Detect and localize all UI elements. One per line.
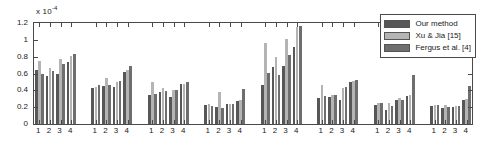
y-tick-label-0: 0 (0, 119, 28, 128)
x-tick-label-g7-3: 3 (396, 126, 400, 135)
x-tick-mark-bottom (128, 120, 129, 124)
x-tick-mark-bottom (106, 120, 107, 124)
x-tick-label-g7-1: 1 (375, 126, 379, 135)
y-axis-multiplier-mantissa: x 10 (36, 7, 52, 16)
x-tick-mark-top (71, 23, 72, 27)
x-tick-label-g3-2: 2 (160, 126, 164, 135)
x-tick-mark-bottom (287, 120, 288, 124)
bar-g1-c3-s2 (62, 64, 65, 124)
bar-g2-c1-s2 (98, 85, 101, 124)
y-tick-label-0.2: 0.2 (0, 102, 28, 111)
y-tick-label-1: 1 (0, 34, 28, 43)
x-tick-mark-bottom (71, 120, 72, 124)
x-tick-mark-bottom (184, 120, 185, 124)
x-tick-mark-bottom (163, 120, 164, 124)
x-tick-mark-top (343, 23, 344, 27)
x-tick-label-g1-4: 4 (68, 126, 72, 135)
bar-g7-c4-s2 (412, 75, 415, 124)
x-tick-label-g4-2: 2 (216, 126, 220, 135)
bar-g5-c4-s2 (299, 26, 302, 124)
bar-g3-c4-s2 (186, 82, 189, 125)
y-tick-label-1.2: 1.2 (0, 18, 28, 27)
x-tick-mark-bottom (219, 120, 220, 124)
bar-g5-c1-s2 (267, 73, 270, 124)
legend-label-0: Our method (415, 19, 457, 29)
x-tick-mark-top (96, 23, 97, 27)
x-tick-label-g6-2: 2 (329, 126, 333, 135)
x-tick-mark-top (61, 23, 62, 27)
x-tick-label-g3-4: 4 (181, 126, 185, 135)
x-tick-label-g3-1: 1 (149, 126, 153, 135)
bar-chart-figure: x 10-4 00.20.40.60.811.2 123412341234123… (0, 0, 483, 147)
legend-label-1: Xu & Jia [15] (415, 31, 460, 41)
bar-g7-c2-s2 (391, 106, 394, 124)
bar-g8-c1-s2 (437, 105, 440, 124)
x-tick-mark-bottom (209, 120, 210, 124)
y-tick-label-0.6: 0.6 (0, 68, 28, 77)
x-tick-mark-bottom (61, 120, 62, 124)
x-tick-mark-bottom (297, 120, 298, 124)
x-tick-mark-top (117, 23, 118, 27)
x-tick-label-g8-1: 1 (432, 126, 436, 135)
bar-g3-c3-s2 (175, 90, 178, 124)
bar-g6-c1-s2 (324, 96, 327, 124)
y-tick-mark (468, 74, 472, 75)
x-tick-mark-bottom (230, 120, 231, 124)
x-tick-label-g5-1: 1 (262, 126, 266, 135)
x-tick-label-g2-2: 2 (103, 126, 107, 135)
x-tick-mark-top (332, 23, 333, 27)
y-tick-mark (34, 107, 38, 108)
y-tick-label-0.4: 0.4 (0, 85, 28, 94)
y-tick-mark (34, 57, 38, 58)
x-tick-mark-bottom (174, 120, 175, 124)
y-axis-multiplier-exponent: -4 (52, 5, 58, 11)
x-tick-mark-bottom (400, 120, 401, 124)
bar-g8-c2-s2 (447, 107, 450, 124)
y-tick-mark (468, 90, 472, 91)
bar-g4-c4-s2 (242, 89, 245, 124)
x-tick-mark-bottom (152, 120, 153, 124)
x-tick-mark-bottom (445, 120, 446, 124)
x-tick-mark-top (378, 23, 379, 27)
x-tick-label-g2-3: 3 (114, 126, 118, 135)
bar-g4-c1-s2 (211, 106, 214, 124)
x-tick-mark-bottom (435, 120, 436, 124)
bar-g7-c1-s2 (380, 103, 383, 124)
bar-g7-c3-s2 (401, 100, 404, 124)
x-tick-label-g8-3: 3 (453, 126, 457, 135)
x-tick-mark-bottom (117, 120, 118, 124)
x-tick-label-g8-4: 4 (463, 126, 467, 135)
legend-row-1: Xu & Jia [15] (384, 30, 471, 42)
x-tick-label-g6-4: 4 (350, 126, 354, 135)
y-tick-label-0.8: 0.8 (0, 51, 28, 60)
bar-g3-c2-s2 (165, 91, 168, 124)
x-tick-label-g6-3: 3 (340, 126, 344, 135)
x-tick-mark-top (163, 23, 164, 27)
x-tick-mark-top (230, 23, 231, 27)
bar-g2-c4-s2 (129, 66, 132, 124)
bar-g2-c2-s2 (108, 85, 111, 124)
x-tick-mark-bottom (241, 120, 242, 124)
bar-g1-c2-s2 (52, 71, 55, 124)
x-tick-label-g8-2: 2 (442, 126, 446, 135)
y-tick-mark (468, 107, 472, 108)
x-tick-mark-top (276, 23, 277, 27)
x-tick-mark-bottom (276, 120, 277, 124)
bar-g8-c3-s2 (458, 106, 461, 124)
legend-swatch-icon-2 (384, 44, 410, 52)
bar-g6-c2-s2 (334, 95, 337, 124)
x-tick-mark-top (297, 23, 298, 27)
x-tick-label-g4-3: 3 (227, 126, 231, 135)
x-tick-mark-top (322, 23, 323, 27)
x-tick-mark-bottom (354, 120, 355, 124)
bar-g1-c4-s2 (73, 54, 76, 124)
x-tick-label-g1-1: 1 (36, 126, 40, 135)
x-tick-mark-bottom (389, 120, 390, 124)
x-tick-mark-top (287, 23, 288, 27)
x-tick-mark-top (152, 23, 153, 27)
x-tick-mark-top (174, 23, 175, 27)
x-tick-label-g1-3: 3 (57, 126, 61, 135)
x-tick-mark-bottom (332, 120, 333, 124)
bar-g6-c3-s2 (345, 87, 348, 124)
chart-legend: Our methodXu & Jia [15]Fergus et al. [4] (380, 14, 476, 58)
